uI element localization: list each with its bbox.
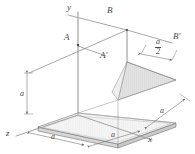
dimension-width-a: a	[111, 131, 115, 139]
fin-face	[118, 62, 176, 100]
dimension-right-a: a	[160, 107, 164, 115]
dim-half-ext-left	[141, 45, 146, 54]
quadrant-line-left	[78, 100, 118, 113]
dimension-half-a-numerator: a	[155, 38, 161, 46]
dimension-depth-a: a	[51, 133, 55, 141]
frame-line-b-upper-left	[68, 15, 127, 30]
z-axis-label: z	[6, 129, 10, 138]
frame-line-b-to-bprime	[127, 30, 172, 43]
x-axis-label: x	[148, 135, 152, 144]
triangular-fin	[112, 62, 176, 100]
dimension-height	[24, 73, 33, 114]
marker-point-a	[77, 44, 79, 46]
figure-drawing	[0, 0, 195, 154]
construction-frame	[29, 15, 172, 73]
dim-right-tick	[180, 94, 190, 101]
point-markers	[77, 29, 128, 46]
dim-half-ext-right	[172, 50, 177, 60]
figure-container: y x z A A′ B B′ a a a a a 2	[0, 0, 195, 154]
point-label-a-prime: A′	[100, 51, 107, 60]
dimension-half-a: a 2	[155, 38, 161, 56]
y-axis-label: y	[67, 3, 71, 12]
dimension-height-a: a	[20, 90, 24, 98]
point-label-a: A	[64, 33, 70, 42]
dimension-half-a-denominator: 2	[155, 48, 161, 56]
point-label-b-prime: B′	[173, 32, 180, 41]
point-label-b: B	[107, 6, 113, 15]
marker-point-b	[126, 29, 128, 31]
